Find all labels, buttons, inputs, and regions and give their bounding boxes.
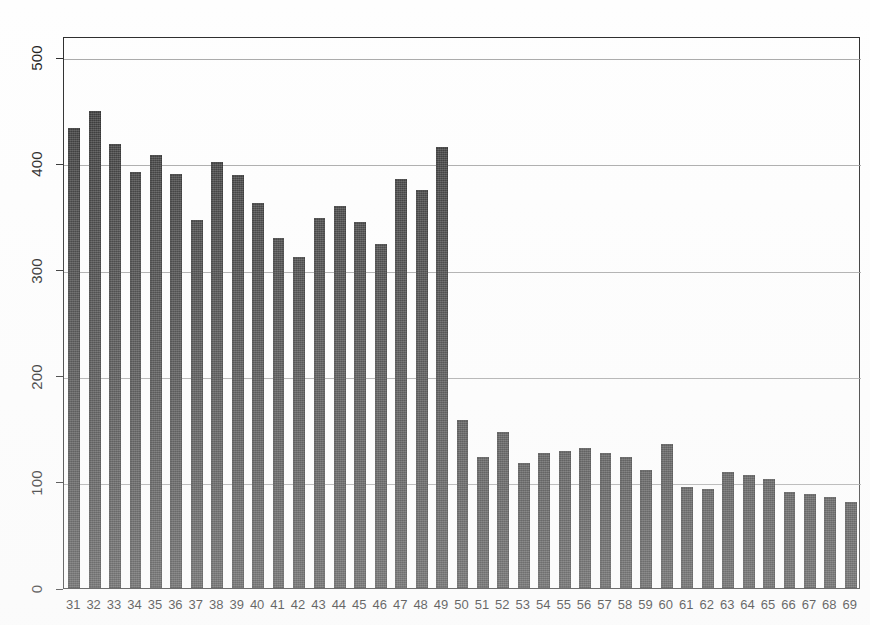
- bar: [681, 487, 693, 588]
- x-tick-label-48: 48: [410, 597, 430, 612]
- bar: [130, 172, 142, 588]
- x-tick-label-46: 46: [370, 597, 390, 612]
- x-tick-label-68: 68: [819, 597, 839, 612]
- bar: [640, 470, 652, 588]
- bar: [68, 128, 80, 588]
- y-tick-mark-100: [56, 482, 63, 483]
- x-tick-label-65: 65: [758, 597, 778, 612]
- x-tick-label-38: 38: [206, 597, 226, 612]
- gridline-400: [64, 165, 861, 166]
- y-tick-mark-0: [56, 589, 63, 590]
- x-tick-label-33: 33: [104, 597, 124, 612]
- bar: [518, 463, 530, 588]
- bar: [804, 494, 816, 588]
- bar: [559, 451, 571, 588]
- x-tick-label-62: 62: [697, 597, 717, 612]
- bar-chart: 0100200300400500 31323334353637383940414…: [0, 0, 870, 625]
- x-tick-label-42: 42: [288, 597, 308, 612]
- x-tick-label-31: 31: [63, 597, 83, 612]
- bar: [661, 444, 673, 588]
- x-tick-label-69: 69: [840, 597, 860, 612]
- bar: [293, 257, 305, 588]
- x-tick-label-47: 47: [390, 597, 410, 612]
- bar: [170, 174, 182, 588]
- gridline-200: [64, 378, 861, 379]
- x-tick-label-53: 53: [513, 597, 533, 612]
- bar: [497, 432, 509, 588]
- x-tick-label-51: 51: [472, 597, 492, 612]
- x-tick-label-39: 39: [226, 597, 246, 612]
- bar: [150, 155, 162, 588]
- bar: [252, 203, 264, 588]
- bar: [109, 144, 121, 588]
- x-tick-label-43: 43: [308, 597, 328, 612]
- y-axis-tick-marks: [0, 0, 63, 625]
- x-tick-label-59: 59: [635, 597, 655, 612]
- x-tick-label-66: 66: [778, 597, 798, 612]
- y-tick-mark-400: [56, 164, 63, 165]
- bar: [273, 238, 285, 588]
- x-tick-label-45: 45: [349, 597, 369, 612]
- bar: [538, 453, 550, 588]
- plot-area: [63, 37, 860, 589]
- bar: [436, 147, 448, 588]
- x-tick-label-50: 50: [451, 597, 471, 612]
- bar: [743, 475, 755, 588]
- bar: [416, 190, 428, 588]
- bar: [824, 497, 836, 588]
- bar: [375, 244, 387, 588]
- x-tick-label-57: 57: [594, 597, 614, 612]
- bar: [211, 162, 223, 588]
- x-tick-label-64: 64: [737, 597, 757, 612]
- x-tick-label-36: 36: [165, 597, 185, 612]
- bar: [314, 218, 326, 588]
- bar: [334, 206, 346, 588]
- bar: [232, 175, 244, 588]
- x-tick-label-35: 35: [145, 597, 165, 612]
- x-tick-label-67: 67: [799, 597, 819, 612]
- bar: [579, 448, 591, 588]
- x-tick-label-63: 63: [717, 597, 737, 612]
- x-tick-label-56: 56: [574, 597, 594, 612]
- x-tick-label-44: 44: [329, 597, 349, 612]
- x-axis-labels: 3132333435363738394041424344454647484950…: [0, 597, 870, 619]
- x-tick-label-41: 41: [267, 597, 287, 612]
- y-tick-mark-500: [56, 58, 63, 59]
- bar: [191, 220, 203, 588]
- gridline-500: [64, 59, 861, 60]
- bar: [354, 222, 366, 588]
- x-tick-label-32: 32: [83, 597, 103, 612]
- x-tick-label-52: 52: [492, 597, 512, 612]
- bar: [763, 479, 775, 588]
- bar: [477, 457, 489, 588]
- x-tick-label-55: 55: [553, 597, 573, 612]
- bar: [600, 453, 612, 588]
- y-tick-mark-300: [56, 270, 63, 271]
- x-tick-label-60: 60: [656, 597, 676, 612]
- gridline-300: [64, 272, 861, 273]
- x-tick-label-49: 49: [431, 597, 451, 612]
- x-tick-label-34: 34: [124, 597, 144, 612]
- x-tick-label-58: 58: [615, 597, 635, 612]
- bar: [784, 492, 796, 588]
- x-tick-label-61: 61: [676, 597, 696, 612]
- x-tick-label-54: 54: [533, 597, 553, 612]
- bar: [722, 472, 734, 588]
- bar: [395, 179, 407, 588]
- bar: [89, 111, 101, 588]
- bar: [457, 420, 469, 588]
- bar: [845, 502, 857, 588]
- y-tick-mark-200: [56, 376, 63, 377]
- bar: [702, 489, 714, 588]
- x-tick-label-40: 40: [247, 597, 267, 612]
- bar: [620, 457, 632, 588]
- x-tick-label-37: 37: [186, 597, 206, 612]
